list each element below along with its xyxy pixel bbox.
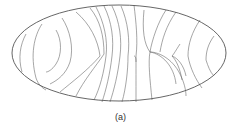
contour-lines — [20, 5, 214, 102]
contour-map-figure — [0, 0, 241, 108]
figure-caption: (a) — [0, 112, 241, 122]
map-outline — [12, 5, 226, 101]
